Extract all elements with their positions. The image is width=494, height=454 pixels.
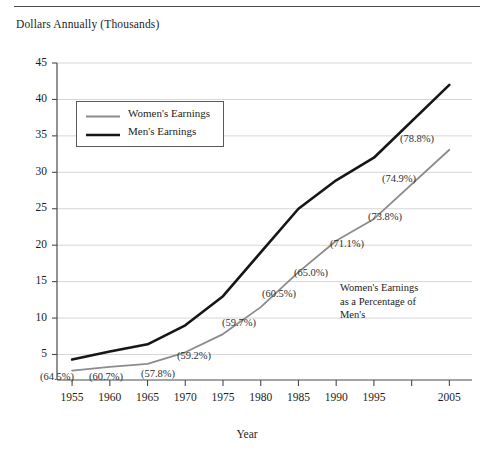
y-tick-label-30: 30 — [23, 165, 47, 177]
annotation-pct-1995: (73.8%) — [368, 211, 402, 222]
ratio-note-annotation: Women's Earnings as a Percentage of Men'… — [340, 281, 418, 322]
y-tick-label-10: 10 — [23, 311, 47, 323]
ratio-note-line-3: Men's — [340, 308, 418, 322]
legend-label-mens: Men's Earnings — [128, 125, 196, 137]
ratio-note-line-2: as a Percentage of — [340, 295, 418, 309]
y-tick-label-40: 40 — [23, 92, 47, 104]
annotation-pct-1990: (71.1%) — [330, 238, 364, 249]
chart-legend: Women's Earnings Men's Earnings — [76, 101, 224, 147]
y-tick-label-5: 5 — [23, 347, 47, 359]
y-tick-label-25: 25 — [23, 201, 47, 213]
y-tick-label-20: 20 — [23, 238, 47, 250]
x-axis-ticks — [72, 380, 449, 386]
x-axis-title: Year — [0, 428, 494, 440]
x-tick-label-2005: 2005 — [425, 391, 473, 403]
y-tick-label-45: 45 — [23, 56, 47, 68]
annotation-pct-2000: (74.9%) — [382, 173, 416, 184]
annotation-pct-1970: (59.2%) — [177, 350, 211, 361]
y-axis-ticks — [52, 63, 57, 354]
annotation-pct-1965: (57.8%) — [141, 368, 175, 379]
y-tick-label-35: 35 — [23, 128, 47, 140]
legend-label-womens: Women's Earnings — [128, 107, 210, 119]
y-tick-label-15: 15 — [23, 274, 47, 286]
chart-figure: Dollars Annually (Thousands) 51015202530… — [0, 0, 494, 454]
legend-swatch-womens — [86, 115, 120, 118]
annotation-pct-2005: (78.8%) — [400, 133, 434, 144]
plot-canvas — [0, 0, 494, 454]
x-tick-label-1995: 1995 — [350, 391, 398, 403]
annotation-pct-1985: (65.0%) — [294, 267, 328, 278]
legend-swatch-mens — [86, 133, 120, 137]
annotation-pct-1960: (60.7%) — [89, 371, 123, 382]
annotation-pct-1955: (64.5%) — [40, 371, 74, 382]
ratio-note-line-1: Women's Earnings — [340, 281, 418, 295]
annotation-pct-1980: (60.5%) — [262, 288, 296, 299]
annotation-pct-1975: (59.7%) — [222, 317, 256, 328]
